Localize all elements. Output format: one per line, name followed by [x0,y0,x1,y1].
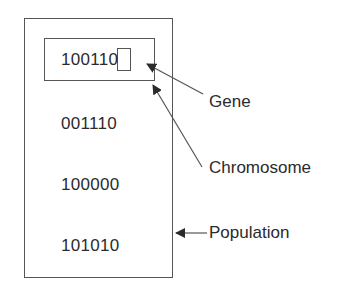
population-label: Population [209,223,289,243]
gene-label: Gene [209,92,251,112]
chromosome-arrow [153,85,202,167]
arrows [0,0,352,289]
chromosome-label: Chromosome [209,158,311,178]
